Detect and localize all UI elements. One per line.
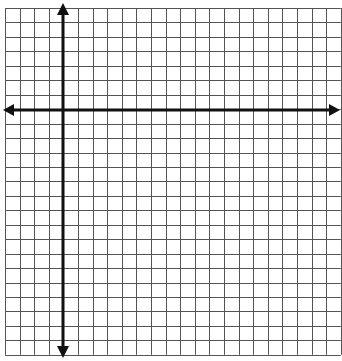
arrow-left-icon — [3, 104, 14, 116]
coordinate-plane — [0, 0, 342, 361]
grid-lines — [5, 8, 342, 356]
arrow-right-icon — [329, 104, 340, 116]
axes — [3, 3, 340, 358]
arrow-down-icon — [57, 346, 69, 358]
